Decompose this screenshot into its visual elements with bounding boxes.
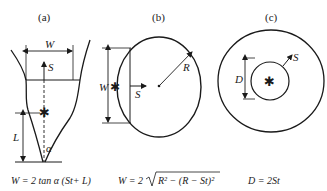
origin-star-icon: ✱ [39,105,50,120]
panel-b: (b) W ✱ S R [99,11,201,137]
w-label: W [45,38,55,50]
w-label: W [99,81,109,93]
d-label: D [234,73,243,85]
s-label: S [135,88,141,100]
equation-c: D = 2St [247,175,280,186]
panel-c: (c) ✱ D S [218,11,324,132]
s-label: S [48,61,54,73]
equation-b: W = 2 R² − (R − St)² [118,172,220,187]
r-label: R [182,61,190,73]
equation-a: W = 2 tan α (St+ L) [11,175,92,187]
origin-star-icon: ✱ [110,80,120,94]
alpha-label: α [46,142,52,154]
diagram-canvas: (a) W S ✱ L α (b) W ✱ [0,0,327,191]
equation-b-prefix: W = 2 [118,175,143,186]
equation-b-radicand: R² − (R − St)² [157,175,215,187]
center-dot [158,85,161,88]
panel-c-label: (c) [265,11,278,24]
source-star-icon: ✱ [264,74,275,89]
s-growth-arrow [283,55,292,66]
s-label: S [293,51,299,63]
panel-b-label: (b) [152,11,165,24]
panel-a: (a) W S ✱ L α [11,11,90,162]
panel-a-label: (a) [38,11,51,24]
l-label: L [12,131,19,143]
